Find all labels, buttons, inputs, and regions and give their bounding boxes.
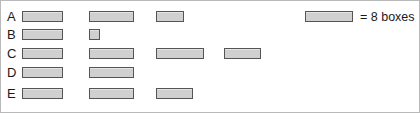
- row-label: A: [7, 9, 21, 26]
- pictograph-row: A: [1, 9, 420, 26]
- pictograph-symbol: [156, 88, 193, 99]
- pictograph-symbol: [156, 48, 204, 59]
- pictograph-symbol: [89, 29, 100, 40]
- row-label: C: [7, 46, 21, 63]
- row-label: E: [7, 86, 21, 103]
- pictograph-symbol: [89, 88, 134, 99]
- pictograph-symbol: [224, 48, 261, 59]
- pictograph-row: C: [1, 46, 420, 63]
- pictograph-row: D: [1, 65, 420, 82]
- pictograph-symbol: [89, 48, 134, 59]
- pictograph-symbol: [89, 11, 134, 22]
- pictograph-symbol: [22, 11, 63, 22]
- pictograph-symbol: [22, 48, 63, 59]
- pictograph-row: B: [1, 27, 420, 44]
- pictograph-symbol: [22, 67, 63, 78]
- pictograph-symbol: [22, 29, 63, 40]
- pictograph-symbol: [156, 11, 184, 22]
- row-label: B: [7, 27, 21, 44]
- pictograph-symbol: [22, 88, 63, 99]
- pictograph-row: E: [1, 86, 420, 103]
- legend-symbol-icon: [305, 11, 353, 22]
- pictograph-chart: ABCDE = 8 boxes: [0, 0, 420, 113]
- legend-label: = 8 boxes: [360, 9, 415, 26]
- pictograph-symbol: [89, 67, 134, 78]
- row-label: D: [7, 65, 21, 82]
